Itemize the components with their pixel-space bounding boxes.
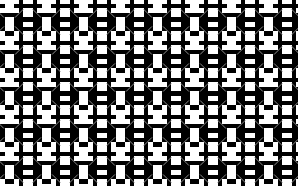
pattern-canvas <box>0 0 298 186</box>
pattern-fill-rect <box>0 0 298 186</box>
tiling-pattern-svg <box>0 0 298 186</box>
